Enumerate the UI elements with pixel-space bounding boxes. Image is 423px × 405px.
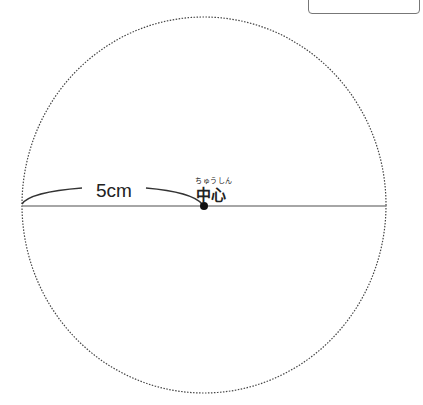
radius-label: 5cm: [96, 180, 132, 202]
radius-brace-left: [22, 188, 82, 204]
radius-brace-right: [146, 188, 202, 204]
center-label: 中心: [196, 183, 226, 204]
